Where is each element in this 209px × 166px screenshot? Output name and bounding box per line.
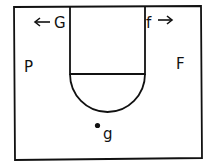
player-G: G (35, 14, 66, 32)
player-g: g (95, 123, 113, 143)
court-diagram: G f P F g (0, 0, 209, 166)
player-P-label: P (24, 58, 33, 76)
player-G-label: G (54, 14, 66, 32)
free-throw-lane (70, 6, 145, 74)
player-F-label: F (176, 55, 185, 73)
player-g-label: g (103, 125, 113, 143)
free-throw-circle (70, 74, 145, 112)
ball-dot-icon (95, 123, 100, 128)
arrow-right-icon (158, 16, 172, 24)
player-f: f (146, 14, 172, 32)
arrow-left-icon (35, 18, 50, 26)
player-f-label: f (146, 14, 152, 32)
